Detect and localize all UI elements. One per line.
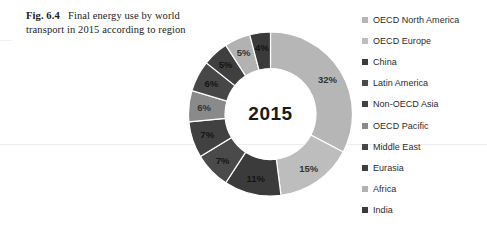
center-year-label: 2015 <box>248 103 292 124</box>
legend-swatch-icon <box>362 144 368 150</box>
legend-item[interactable]: Eurasia <box>362 157 486 178</box>
legend-item[interactable]: OECD Pacific <box>362 115 486 136</box>
legend-swatch-icon <box>362 123 368 129</box>
legend-swatch-icon <box>362 207 368 213</box>
legend-item[interactable]: Latin America <box>362 73 486 94</box>
legend-swatch-icon <box>362 165 368 171</box>
legend-item-label: China <box>373 57 397 67</box>
legend-item[interactable]: Middle East <box>362 136 486 157</box>
pie-slice-value-label: 6% <box>197 102 211 113</box>
legend-swatch-icon <box>362 101 368 107</box>
legend-item-label: OECD North America <box>373 15 459 25</box>
legend-item-label: Non-OECD Asia <box>373 99 439 109</box>
legend-item[interactable]: Non-OECD Asia <box>362 94 486 115</box>
legend-swatch-icon <box>362 17 368 23</box>
figure-caption: Fig. 6.4 Final energy use by world trans… <box>26 9 186 36</box>
chart-legend: OECD North AmericaOECD EuropeChinaLatin … <box>362 9 486 221</box>
legend-item-label: OECD Europe <box>373 36 431 46</box>
legend-swatch-icon <box>362 80 368 86</box>
pie-slice-value-label: 6% <box>205 78 219 89</box>
pie-slice-value-label: 5% <box>219 59 233 70</box>
legend-item-label: India <box>373 205 393 215</box>
pie-slice-value-label: 4% <box>255 42 269 53</box>
pie-chart: 32%15%11%7%7%6%6%5%5%4% 2015 <box>188 6 354 222</box>
legend-item-label: Africa <box>373 184 396 194</box>
legend-item[interactable]: OECD North America <box>362 9 486 30</box>
pie-slice[interactable] <box>271 32 353 152</box>
scan-artifact-mark <box>0 40 12 41</box>
pie-slice-value-label: 7% <box>200 129 214 140</box>
pie-slice-value-label: 5% <box>237 47 251 58</box>
legend-item-label: Middle East <box>373 142 421 152</box>
donut-chart-graphic: 32%15%11%7%7%6%6%5%5%4% 2015 <box>188 9 353 219</box>
donut-svg: 32%15%11%7%7%6%6%5%5%4% 2015 <box>188 9 353 219</box>
legend-item[interactable]: OECD Europe <box>362 30 486 51</box>
legend-swatch-icon <box>362 59 368 65</box>
pie-slice-value-label: 7% <box>216 155 230 166</box>
legend-swatch-icon <box>362 38 368 44</box>
legend-item-label: OECD Pacific <box>373 121 429 131</box>
legend-item[interactable]: India <box>362 200 486 221</box>
legend-item[interactable]: Africa <box>362 179 486 200</box>
pie-slice-value-label: 32% <box>318 74 338 85</box>
legend-item-label: Latin America <box>373 78 428 88</box>
pie-slice-value-label: 15% <box>299 163 319 174</box>
legend-item-label: Eurasia <box>373 163 404 173</box>
legend-item[interactable]: China <box>362 51 486 72</box>
pie-slice-value-label: 11% <box>246 173 265 184</box>
legend-swatch-icon <box>362 186 368 192</box>
figure-number: Fig. 6.4 <box>26 10 60 21</box>
